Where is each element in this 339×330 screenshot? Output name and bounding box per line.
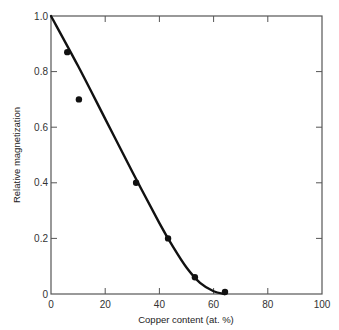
x-tick-label: 0: [48, 299, 54, 310]
y-tick-label: 1.0: [34, 11, 48, 22]
x-tick-label: 100: [314, 299, 331, 310]
x-tick-label: 60: [208, 299, 220, 310]
data-point: [165, 235, 171, 241]
data-point: [76, 96, 82, 102]
y-tick-labels: 00.20.40.60.81.0: [34, 11, 48, 300]
plot-frame: [51, 16, 322, 294]
data-point: [64, 49, 70, 55]
y-tick-label: 0.8: [34, 66, 48, 77]
x-tick-labels: 020406080100: [48, 299, 331, 310]
data-point: [192, 274, 198, 280]
y-tick-label: 0.2: [34, 233, 48, 244]
y-tick-label: 0.4: [34, 177, 48, 188]
fitted-curve: [51, 16, 224, 294]
x-tick-label: 40: [154, 299, 166, 310]
data-point: [133, 180, 139, 186]
x-tick-label: 80: [262, 299, 274, 310]
y-tick-label: 0.6: [34, 122, 48, 133]
x-tick-label: 20: [100, 299, 112, 310]
axis-ticks: [51, 16, 322, 294]
x-axis-label: Copper content (at. %): [138, 314, 234, 325]
y-tick-label: 0: [42, 289, 48, 300]
data-point: [222, 289, 228, 295]
chart: 020406080100 00.20.40.60.81.0 Copper con…: [0, 0, 339, 330]
y-axis-label: Relative magnetization: [11, 107, 22, 203]
